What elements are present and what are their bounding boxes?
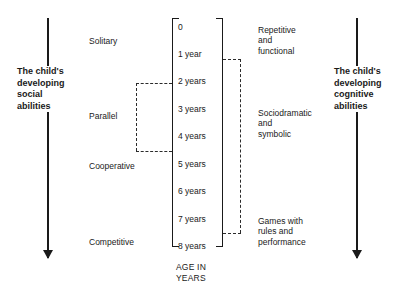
age-tick-3: 3 years bbox=[178, 104, 206, 114]
age-tick-7: 7 years bbox=[178, 214, 206, 224]
social-caption-line-3: social bbox=[17, 89, 79, 101]
play-type-parallel: Parallel bbox=[89, 111, 117, 121]
play-content-games-rules-performance: Games with rules and performance bbox=[258, 216, 306, 247]
social-caption-line-4: abilities bbox=[17, 101, 79, 113]
age-tick-8: 8 years bbox=[178, 241, 206, 251]
games-line-1: Games with bbox=[258, 216, 306, 226]
age-scale-serif-top-left bbox=[172, 18, 179, 19]
overlap-bracket-left-vertical bbox=[136, 83, 137, 151]
social-abilities-caption: The child's developing social abilities bbox=[17, 66, 79, 112]
social-abilities-arrow-shaft bbox=[47, 18, 49, 258]
age-tick-2: 2 years bbox=[178, 76, 206, 86]
age-axis-caption: AGE IN YEARS bbox=[176, 262, 206, 283]
age-axis-caption-line-2: YEARS bbox=[176, 273, 206, 284]
diagram-canvas: The child's developing social abilities … bbox=[0, 0, 403, 307]
age-scale-left-rail bbox=[172, 18, 173, 247]
cognitive-abilities-caption: The child's developing cognitive abiliti… bbox=[334, 66, 400, 112]
cognitive-caption-line-2: developing bbox=[334, 78, 400, 90]
age-tick-4: 4 years bbox=[178, 131, 206, 141]
cognitive-caption-line-4: abilities bbox=[334, 101, 400, 113]
sociodramatic-line-2: and bbox=[258, 118, 312, 128]
overlap-bracket-right-vertical bbox=[240, 59, 241, 233]
overlap-bracket-right-top-arm bbox=[223, 59, 241, 60]
play-type-cooperative: Cooperative bbox=[89, 161, 135, 171]
play-type-solitary: Solitary bbox=[89, 36, 117, 46]
age-tick-1: 1 year bbox=[178, 49, 202, 59]
age-axis-caption-line-1: AGE IN bbox=[176, 262, 206, 273]
cognitive-abilities-arrowhead bbox=[352, 250, 362, 259]
overlap-bracket-right-bottom-arm bbox=[223, 233, 241, 234]
repetitive-line-3: functional bbox=[258, 46, 296, 56]
repetitive-line-1: Repetitive bbox=[258, 25, 296, 35]
overlap-bracket-left-top-arm bbox=[136, 83, 172, 84]
age-tick-5: 5 years bbox=[178, 159, 206, 169]
social-abilities-arrowhead bbox=[43, 250, 53, 259]
age-scale-serif-top-right bbox=[216, 18, 223, 19]
games-line-3: performance bbox=[258, 237, 306, 247]
age-scale-serif-bottom-right bbox=[216, 246, 223, 247]
cognitive-caption-line-1: The child's bbox=[334, 66, 400, 78]
age-tick-6: 6 years bbox=[178, 186, 206, 196]
social-caption-line-1: The child's bbox=[17, 66, 79, 78]
age-scale-right-rail bbox=[222, 18, 223, 247]
sociodramatic-line-1: Sociodramatic bbox=[258, 108, 312, 118]
play-type-competitive: Competitive bbox=[89, 237, 134, 247]
play-content-sociodramatic-symbolic: Sociodramatic and symbolic bbox=[258, 108, 312, 139]
overlap-bracket-left-bottom-arm bbox=[136, 151, 172, 152]
social-caption-line-2: developing bbox=[17, 78, 79, 90]
repetitive-line-2: and bbox=[258, 35, 296, 45]
age-tick-0: 0 bbox=[178, 22, 183, 32]
cognitive-caption-line-3: cognitive bbox=[334, 89, 400, 101]
play-content-repetitive-functional: Repetitive and functional bbox=[258, 25, 296, 56]
sociodramatic-line-3: symbolic bbox=[258, 129, 312, 139]
cognitive-abilities-arrow-shaft bbox=[356, 18, 358, 258]
games-line-2: rules and bbox=[258, 226, 306, 236]
